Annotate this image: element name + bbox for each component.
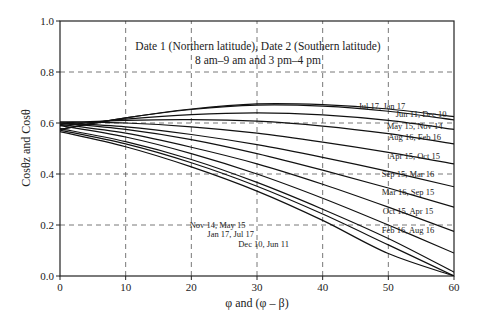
curve-label: Aug 16, Feb 16	[388, 132, 441, 142]
curve-label: Dec 10, Jun 11	[238, 239, 289, 249]
curve-label: Mar 16, Sep 15	[382, 187, 434, 197]
x-tick-label: 40	[317, 281, 329, 293]
y-tick-label: 1.0	[40, 15, 54, 27]
curve-label: Jan 17, Jul 17	[207, 229, 254, 239]
x-tick-label: 10	[120, 281, 132, 293]
y-axis-label: Cosθz and Cosθ	[19, 109, 33, 187]
curve-label: Jun 11, Dec 10	[396, 109, 447, 119]
y-tick-label: 0.2	[40, 219, 54, 231]
x-tick-label: 60	[449, 281, 461, 293]
curve-label: Sep 15, Mar 16	[382, 169, 434, 179]
curve-label: Apr 15, Oct 15	[389, 151, 440, 161]
curve-label: May 15, Nov 14	[387, 121, 443, 131]
chart-title: Date 1 (Northern latitude), Date 2 (Sout…	[135, 40, 380, 53]
curve-label: Feb 16, Aug 16	[382, 225, 434, 235]
chart-subtitle: 8 am–9 am and 3 pm–4 pm	[195, 54, 321, 67]
curve-label: Oct 15, Apr 15	[383, 206, 434, 216]
y-tick-label: 0.0	[40, 270, 54, 282]
y-tick-label: 0.6	[40, 117, 54, 129]
x-tick-label: 20	[186, 281, 198, 293]
x-tick-label: 30	[252, 281, 264, 293]
chart: 01020304050600.00.20.40.60.81.0 Jul 17, …	[0, 0, 481, 325]
x-axis-label: φ and (φ – β)	[225, 296, 288, 310]
y-tick-label: 0.8	[40, 66, 54, 78]
x-tick-label: 50	[383, 281, 395, 293]
y-tick-label: 0.4	[40, 168, 54, 180]
x-tick-label: 0	[57, 281, 63, 293]
